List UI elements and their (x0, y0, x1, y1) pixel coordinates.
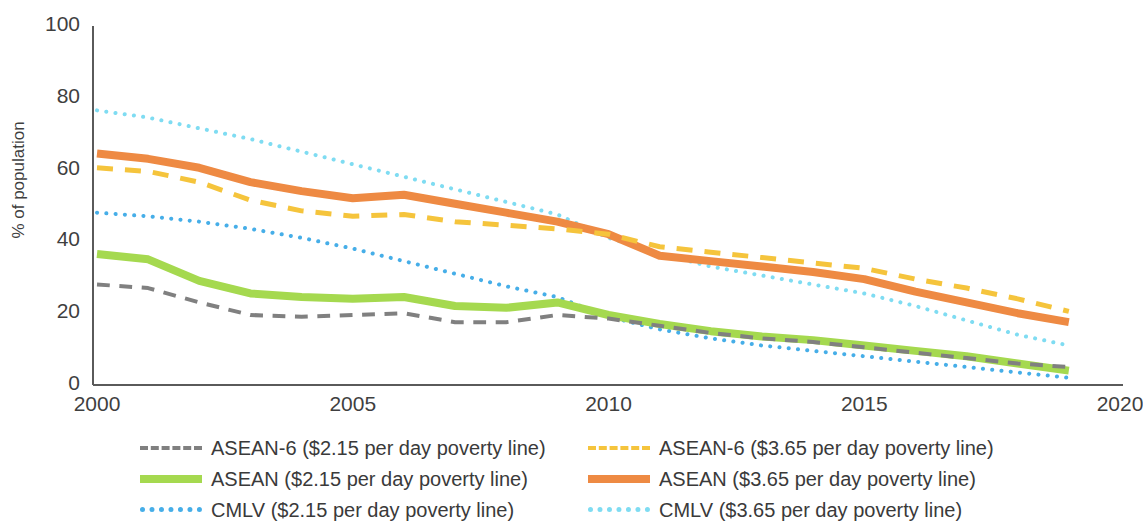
x-tick-label: 2005 (329, 392, 376, 416)
legend-swatch-solid-icon (140, 475, 202, 483)
x-tick-label: 2015 (841, 392, 888, 416)
x-tick-label: 2000 (74, 392, 121, 416)
series-line (97, 153, 1069, 322)
legend-item[interactable]: ASEAN ($3.65 per day poverty line) (570, 469, 1143, 489)
legend-swatch-dotted-icon (140, 507, 202, 512)
chart-legend: ASEAN-6 ($2.15 per day poverty line)ASEA… (0, 432, 1143, 524)
y-tick-label: 40 (18, 227, 80, 251)
legend-item[interactable]: CMLV ($2.15 per day poverty line) (0, 500, 570, 520)
line-chart-canvas (0, 0, 1143, 430)
legend-swatch-dashed-icon (588, 446, 650, 450)
y-tick-label: 60 (18, 156, 80, 180)
legend-label: CMLV ($2.15 per day poverty line) (211, 500, 514, 520)
legend-swatch-solid-icon (588, 475, 650, 483)
legend-swatch-dotted-icon (588, 507, 650, 512)
x-tick-label: 2020 (1097, 392, 1143, 416)
y-tick-label: 80 (18, 84, 80, 108)
chart-figure: % of population 020406080100 20002005201… (0, 0, 1143, 524)
plot-area: % of population 020406080100 20002005201… (0, 0, 1143, 430)
axis-lines (93, 26, 1123, 385)
legend-item[interactable]: CMLV ($3.65 per day poverty line) (570, 500, 1143, 520)
legend-label: ASEAN ($2.15 per day poverty line) (211, 469, 528, 489)
legend-item[interactable]: ASEAN-6 ($2.15 per day poverty line) (0, 438, 570, 458)
y-tick-label: 100 (18, 12, 80, 36)
y-tick-label: 20 (18, 299, 80, 323)
x-tick-label: 2010 (585, 392, 632, 416)
legend-label: ASEAN-6 ($2.15 per day poverty line) (211, 438, 546, 458)
legend-item[interactable]: ASEAN-6 ($3.65 per day poverty line) (570, 438, 1143, 458)
legend-label: CMLV ($3.65 per day poverty line) (659, 500, 962, 520)
series-group (97, 110, 1069, 377)
legend-swatch-dashed-icon (140, 446, 202, 450)
legend-item[interactable]: ASEAN ($2.15 per day poverty line) (0, 469, 570, 489)
legend-label: ASEAN-6 ($3.65 per day poverty line) (659, 438, 994, 458)
legend-label: ASEAN ($3.65 per day poverty line) (659, 469, 976, 489)
y-tick-label: 0 (18, 371, 80, 395)
